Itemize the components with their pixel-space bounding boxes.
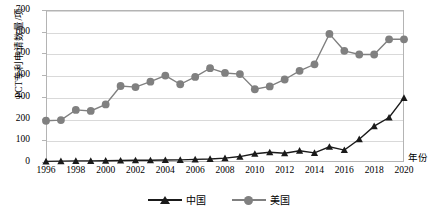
legend-item-中国[interactable]: 中国 [148,192,206,207]
y-axis-tick-mark [42,119,46,120]
gridline [47,54,403,55]
plot-area [46,10,404,162]
legend-circle-marker-icon [244,196,253,205]
gridline [47,11,403,12]
x-axis-title: 年份 [408,150,428,164]
x-axis-tick-label: 1998 [66,165,85,175]
y-axis-tick-label: 100 [0,136,30,146]
chart-container: 0100200300400500600700 19961998200020022… [0,0,438,219]
y-axis-tick-mark [42,53,46,54]
x-axis-tick-label: 2000 [96,165,115,175]
x-axis-tick-label: 2004 [156,165,175,175]
y-axis-title: PCT专利申请数量/项 [11,0,25,123]
x-axis-tick-label: 2010 [245,165,264,175]
legend-label: 中国 [186,192,206,207]
y-axis-tick-mark [42,10,46,11]
gridline [47,76,403,77]
chart-legend: 中国美国 [0,192,438,207]
y-axis-tick-mark [42,97,46,98]
x-axis-tick-label: 2006 [186,165,205,175]
x-axis-tick-label: 2014 [305,165,324,175]
gridline [47,141,403,142]
legend-swatch [148,194,182,206]
legend-label: 美国 [270,192,290,207]
x-axis-tick-label: 2008 [216,165,235,175]
x-axis-tick-label: 2012 [275,165,294,175]
x-axis-tick-label: 2020 [395,165,414,175]
gridline [47,120,403,121]
y-axis-tick-mark [42,75,46,76]
legend-item-美国[interactable]: 美国 [232,192,290,207]
x-axis-tick-label: 2018 [365,165,384,175]
y-axis-tick-mark [42,140,46,141]
x-axis-tick-label: 2002 [126,165,145,175]
x-axis-tick-label: 1996 [37,165,56,175]
y-axis-tick-mark [42,32,46,33]
legend-triangle-marker-icon [160,196,170,204]
x-axis-tick-label: 2016 [335,165,354,175]
legend-swatch [232,194,266,206]
gridline [47,33,403,34]
gridline [47,98,403,99]
y-axis-tick-label: 0 [0,157,30,167]
y-axis-tick-mark [42,162,46,163]
